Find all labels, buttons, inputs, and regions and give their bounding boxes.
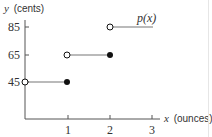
closed-point-1-45 [64,79,70,85]
closed-point-2-65 [107,52,113,58]
function-label: p(x) [136,11,156,25]
y-tick-label-65: 65 [8,48,20,62]
y-tick-label-45: 45 [8,75,20,89]
x-tick-label-2: 2 [107,123,113,137]
x-tick-label-3: 3 [149,123,155,137]
x-tick-label-1: 1 [65,123,71,137]
open-point-0-45 [22,79,28,85]
open-point-2-85 [107,24,113,30]
y-tick-label-85: 85 [8,20,20,34]
right-edge-divider [208,0,209,137]
open-point-1-65 [64,52,70,58]
y-axis-label: y (cents) [3,2,44,14]
x-axis-label: x (ounces) [163,112,212,124]
step-function-chart: 85 65 45 1 2 3 y (cents) x (ounces) p(x) [0,0,212,137]
